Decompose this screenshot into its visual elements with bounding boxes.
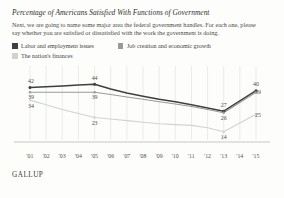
data-point-0-01: [29, 86, 32, 89]
legend-row-bottom: The nation's finances: [12, 51, 272, 61]
data-point-1-01: [29, 91, 31, 93]
data-label-2-05: 23: [92, 120, 98, 126]
x-tick-12: '12: [204, 153, 211, 159]
legend-label-labor: Labor and employment issues: [21, 43, 94, 49]
legend-swatch-jobs: [118, 43, 124, 49]
data-label-0-01: 42: [28, 79, 34, 85]
x-tick-04: '04: [75, 153, 82, 159]
data-point-0-05: [93, 83, 96, 86]
legend-label-finances: The nation's finances: [21, 53, 73, 59]
chart-subtitle: Next, we are going to name some major ar…: [12, 21, 264, 36]
legend-swatch-finances: [12, 53, 18, 59]
x-tick-02: '02: [43, 153, 50, 159]
legend-item-finances[interactable]: The nation's finances: [12, 53, 73, 59]
legend-label-jobs: Job creation and economic growth: [127, 43, 211, 49]
data-label-2-15: 25: [255, 112, 261, 118]
legend-item-jobs[interactable]: Job creation and economic growth: [118, 43, 211, 49]
data-label-0-13: 27: [221, 102, 227, 108]
data-label-1-05: 39: [92, 94, 98, 100]
x-axis-labels: '01'02'03'04'05'06'07'08'09'10'11'12'13'…: [12, 150, 272, 164]
data-point-1-13: [223, 112, 225, 114]
x-tick-08: '08: [140, 153, 147, 159]
data-point-1-05: [93, 91, 95, 93]
chart-card: Percentage of Americans Satisfied With F…: [0, 0, 284, 198]
x-tick-03: '03: [59, 153, 66, 159]
brand-footer: GALLUP: [12, 171, 272, 179]
x-tick-14: '14: [236, 153, 243, 159]
x-tick-13: '13: [220, 153, 227, 159]
data-label-2-01: 34: [28, 103, 34, 109]
x-tick-10: '10: [172, 153, 179, 159]
x-tick-15: '15: [253, 153, 260, 159]
data-label-2-13: 14: [221, 134, 227, 140]
chart-plot-area: 424427403939263934231425: [12, 64, 272, 150]
data-label-0-15: 40: [253, 81, 259, 87]
x-tick-09: '09: [156, 153, 163, 159]
legend-item-labor[interactable]: Labor and employment issues: [12, 43, 94, 49]
legend-swatch-labor: [12, 43, 18, 49]
data-label-1-13: 26: [221, 115, 227, 121]
data-label-1-15: 39: [255, 89, 261, 95]
data-point-2-01: [29, 99, 31, 101]
data-label-1-01: 39: [28, 94, 34, 100]
data-point-2-13: [223, 131, 225, 133]
x-tick-11: '11: [188, 153, 195, 159]
data-point-2-05: [93, 116, 95, 118]
legend-row-top: Labor and employment issues Job creation…: [12, 41, 272, 51]
x-tick-01: '01: [27, 153, 34, 159]
chart-legend: Labor and employment issues Job creation…: [12, 41, 272, 61]
line-chart: 424427403939263934231425: [12, 64, 272, 150]
data-label-0-05: 44: [92, 76, 98, 82]
x-tick-05: '05: [91, 153, 98, 159]
x-tick-07: '07: [123, 153, 130, 159]
x-tick-06: '06: [107, 153, 114, 159]
page-title: Percentage of Americans Satisfied With F…: [12, 8, 272, 18]
